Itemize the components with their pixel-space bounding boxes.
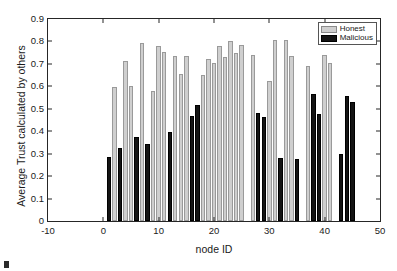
- bar-honest-node-13: [173, 56, 177, 221]
- y-axis-tick-mark: [48, 176, 52, 177]
- y-axis-tick-label: 0.1: [31, 194, 44, 204]
- bar-honest-node-21: [217, 46, 221, 221]
- bar-honest-node-23: [228, 41, 232, 221]
- bar-malicious-node-8: [145, 144, 149, 221]
- y-axis-tick-mark: [48, 86, 52, 87]
- y-axis-tick-label: 0.8: [31, 37, 44, 47]
- legend-swatch-malicious-icon: [321, 35, 337, 42]
- bar-honest-node-4: [123, 61, 127, 221]
- x-axis-tick-mark: [103, 19, 104, 23]
- figure-container: Average Trust calculated by others Hones…: [0, 0, 397, 271]
- bar-honest-node-24: [234, 53, 238, 221]
- bar-malicious-node-43: [339, 154, 343, 221]
- bar-honest-node-22: [223, 57, 227, 221]
- legend-entry-honest: Honest: [321, 25, 373, 33]
- bar-honest-node-33: [284, 40, 288, 221]
- y-axis-tick-mark: [376, 108, 380, 109]
- x-axis-tick-mark: [214, 217, 215, 221]
- chart-legend: Honest Malicious: [318, 22, 377, 45]
- x-axis-tick-mark: [158, 217, 159, 221]
- y-axis-tick-mark: [376, 131, 380, 132]
- x-axis-tick-mark: [158, 19, 159, 23]
- bar-honest-node-41: [328, 63, 332, 221]
- y-axis-tick-label: 0.4: [31, 126, 44, 136]
- x-axis-tick-label: 0: [101, 226, 106, 236]
- bar-honest-node-5: [129, 86, 133, 221]
- y-axis-tick-label: 0.3: [31, 149, 44, 159]
- y-axis-tick-label: 0.7: [31, 59, 44, 69]
- y-axis-tick-label: 0.6: [31, 82, 44, 92]
- bar-malicious-node-29: [262, 117, 266, 221]
- bar-honest-node-18: [201, 75, 205, 221]
- y-axis-tick-mark: [48, 153, 52, 154]
- x-axis-tick-mark: [269, 217, 270, 221]
- y-axis-tick-label: 0.2: [31, 171, 44, 181]
- bar-honest-node-30: [267, 81, 271, 221]
- x-axis-tick-mark: [269, 19, 270, 23]
- y-axis-title: Average Trust calculated by others: [15, 26, 27, 226]
- y-axis-tick-mark: [376, 63, 380, 64]
- bar-honest-node-14: [179, 74, 183, 221]
- bar-honest-node-31: [273, 40, 277, 221]
- legend-label-malicious: Malicious: [340, 34, 373, 42]
- bar-honest-node-19: [206, 59, 210, 221]
- bar-malicious-node-28: [256, 113, 260, 221]
- x-axis-tick-label: 20: [209, 226, 220, 236]
- legend-entry-malicious: Malicious: [321, 34, 373, 42]
- y-axis-tick-label: 0.9: [31, 14, 44, 24]
- bar-malicious-node-38: [311, 94, 315, 221]
- bar-malicious-node-1: [107, 157, 111, 221]
- bar-malicious-node-44: [345, 96, 349, 221]
- x-axis-tick-label: -10: [41, 226, 55, 236]
- bar-malicious-node-12: [168, 132, 172, 221]
- y-axis-tick-mark: [48, 131, 52, 132]
- y-axis-tick-mark: [48, 63, 52, 64]
- scan-artifact: [4, 261, 9, 268]
- x-axis-tick-label: 40: [319, 226, 330, 236]
- x-axis-tick-mark: [103, 217, 104, 221]
- legend-label-honest: Honest: [340, 25, 365, 33]
- x-axis-tick-label: 50: [375, 226, 386, 236]
- y-axis-tick-label: 0.5: [31, 104, 44, 114]
- x-axis-tick-label: 10: [153, 226, 164, 236]
- x-axis-tick-label: 30: [264, 226, 275, 236]
- y-axis-tick-mark: [48, 41, 52, 42]
- bar-malicious-node-45: [350, 102, 354, 221]
- bar-malicious-node-35: [295, 159, 299, 221]
- bar-malicious-node-6: [134, 137, 138, 221]
- legend-swatch-honest-icon: [321, 26, 337, 33]
- bar-malicious-node-32: [278, 158, 282, 221]
- bar-malicious-node-3: [118, 148, 122, 221]
- x-axis-tick-mark: [214, 19, 215, 23]
- bar-malicious-node-39: [317, 114, 321, 221]
- bar-honest-node-34: [289, 56, 293, 221]
- bar-honest-node-37: [306, 66, 310, 221]
- y-axis-tick-mark: [48, 108, 52, 109]
- plot-frame: Honest Malicious 00.10.20.30.40.50.60.70…: [47, 18, 381, 222]
- bar-malicious-node-16: [190, 116, 194, 221]
- bar-honest-node-11: [162, 52, 166, 221]
- x-axis-title: node ID: [47, 243, 381, 255]
- bar-honest-node-20: [212, 63, 216, 221]
- bar-honest-node-9: [151, 91, 155, 221]
- y-axis-tick-mark: [48, 198, 52, 199]
- y-axis-tick-mark: [376, 176, 380, 177]
- bar-honest-node-25: [239, 45, 243, 221]
- plot-area: [48, 19, 380, 221]
- bar-honest-node-2: [112, 87, 116, 221]
- bar-honest-node-40: [322, 55, 326, 221]
- bar-honest-node-7: [140, 43, 144, 221]
- y-axis-tick-mark: [376, 86, 380, 87]
- y-axis-tick-mark: [376, 198, 380, 199]
- x-axis-tick-mark: [324, 217, 325, 221]
- bar-honest-node-15: [184, 56, 188, 221]
- bar-honest-node-27: [251, 55, 255, 221]
- bar-honest-node-10: [156, 46, 160, 221]
- bar-malicious-node-17: [195, 105, 199, 221]
- y-axis-tick-mark: [376, 153, 380, 154]
